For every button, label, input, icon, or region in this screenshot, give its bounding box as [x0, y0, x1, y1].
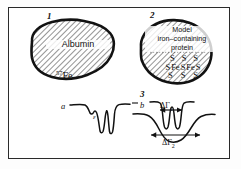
- panel-number-3: 3: [140, 90, 145, 99]
- caption-line-3: protein: [145, 44, 219, 53]
- cluster-atom: S: [193, 71, 198, 80]
- cluster-atom: S: [168, 71, 173, 80]
- delta-gamma-2-label: ΔΓ2: [162, 138, 175, 149]
- cluster-atom: S: [181, 71, 186, 80]
- delta-gamma-2-subscript: 2: [172, 143, 175, 149]
- delta-gamma-1-label: ΔΓ1: [160, 101, 173, 112]
- albumin-label: Albumin: [46, 40, 110, 49]
- isotope-symbol: Fe: [63, 70, 73, 81]
- panel-number-1: 1: [47, 12, 52, 21]
- delta-gamma-2-symbol: ΔΓ: [162, 138, 172, 147]
- model-protein-caption: Model iron–containing protein: [145, 26, 219, 52]
- delta-gamma-1-symbol: ΔΓ: [160, 101, 170, 110]
- spectrum-label-b: b: [140, 101, 144, 110]
- delta-gamma-1-subscript: 1: [170, 106, 173, 112]
- sulfur-iron-cluster: S S S S Fe S Fe S S S S: [152, 54, 214, 80]
- epsilon-annotation: ε: [93, 113, 96, 121]
- isotope-label-fe57: 57Fe: [56, 70, 73, 81]
- spectrum-label-a: a: [61, 102, 65, 111]
- panel-number-2: 2: [150, 11, 155, 20]
- cluster-row-3: S S S: [152, 71, 214, 80]
- figure-root: 1 2 3 Albumin 57Fe Model iron–containing…: [0, 0, 241, 169]
